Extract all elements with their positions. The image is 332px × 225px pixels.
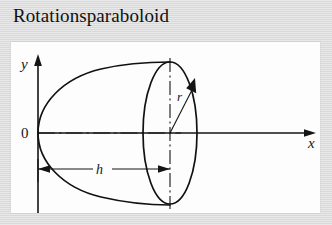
page-title: Rotationsparaboloid: [13, 4, 169, 28]
height-dimension-label: h: [96, 162, 103, 177]
paraboloid-drawing: r h y x 0: [11, 42, 320, 213]
figure-page: Rotationsparaboloid: [0, 0, 332, 225]
parabola-upper-branch: [38, 62, 170, 133]
height-arrowhead-left: [38, 165, 50, 173]
radius-dimension-group: r: [170, 78, 196, 133]
height-dimension-group: h: [38, 159, 170, 182]
radius-dimension-label: r: [177, 89, 183, 104]
y-axis-label: y: [19, 56, 28, 72]
y-axis-arrowhead: [34, 54, 42, 66]
diagram-canvas: r h y x 0: [11, 42, 320, 213]
height-arrowhead-right: [158, 165, 170, 173]
x-axis-label: x: [307, 135, 315, 151]
origin-label: 0: [21, 125, 29, 141]
